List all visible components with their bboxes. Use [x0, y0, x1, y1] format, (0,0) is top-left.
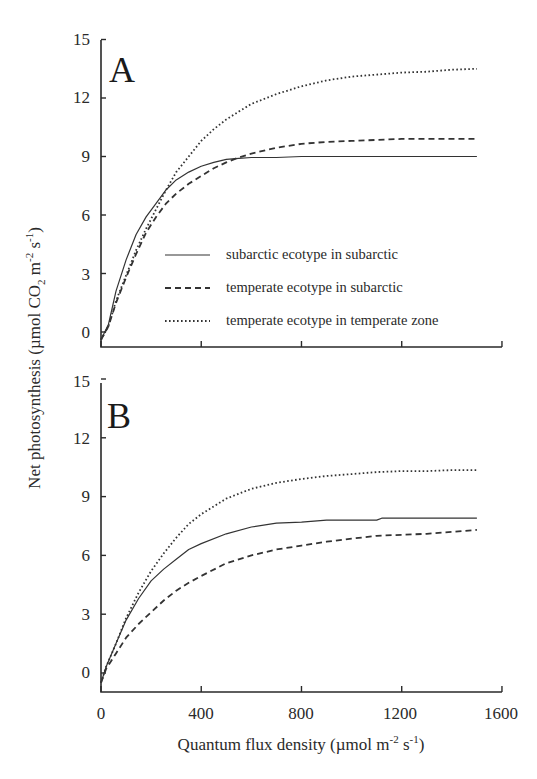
- legend-label-dotted: temperate ecotype in temperate zone: [226, 312, 439, 328]
- x-tick-label: 1600: [471, 705, 531, 722]
- y-tick-label: 15: [60, 31, 90, 48]
- y-tick-label: 12: [60, 430, 90, 447]
- panel-b-plot: [101, 379, 502, 692]
- axis-lines: [101, 383, 502, 692]
- x-tick-label: 0: [71, 705, 131, 722]
- y-tick-label: 0: [60, 324, 90, 341]
- y-axis-label-text: ): [25, 227, 44, 233]
- y-tick-label: 15: [60, 373, 90, 390]
- y-tick-label: 6: [60, 207, 90, 224]
- y-tick-label: 9: [60, 488, 90, 505]
- legend-label-solid: subarctic ecotype in subarctic: [226, 246, 398, 262]
- y-tick-label: 0: [60, 664, 90, 681]
- y-axis-label-text: Net photosynthesis (µmol CO: [25, 285, 44, 489]
- x-axis-label: Quantum flux density (µmol m-2 s-1): [178, 733, 425, 755]
- x-axis-label-superscript: -1: [410, 733, 419, 745]
- figure: A B 0 3 6 9 12 15 0 3 6 9 12 15 0 400 80…: [0, 0, 537, 779]
- legend-label-dashed: temperate ecotype in subarctic: [226, 279, 403, 295]
- series-line-dotted: [101, 470, 477, 683]
- y-axis-label-subscript: 2: [35, 279, 47, 285]
- y-tick-label: 12: [60, 89, 90, 106]
- panel-a-plot: [101, 40, 502, 348]
- y-axis-label-superscript: -1: [23, 233, 35, 242]
- series-line-dotted: [101, 69, 477, 340]
- y-tick-label: 9: [60, 148, 90, 165]
- y-axis-label-text: m: [25, 262, 44, 279]
- y-axis-label: Net photosynthesis (µmol CO2 m-2 s-1): [23, 227, 46, 489]
- x-tick-label: 400: [171, 705, 231, 722]
- x-axis-label-text: Quantum flux density (µmol m: [178, 735, 390, 754]
- series-line-dashed: [101, 530, 477, 683]
- panel-a-letter: A: [109, 52, 135, 88]
- y-tick-label: 6: [60, 547, 90, 564]
- series-line-solid: [101, 518, 477, 683]
- y-axis-label-text: s: [25, 242, 44, 253]
- panel-b-letter: B: [107, 398, 131, 434]
- x-axis-label-superscript: -2: [390, 733, 399, 745]
- y-tick-label: 3: [60, 606, 90, 623]
- x-tick-label: 800: [271, 705, 331, 722]
- x-axis-label-text: ): [419, 735, 425, 754]
- y-axis-label-superscript: -2: [23, 253, 35, 262]
- y-tick-label: 3: [60, 266, 90, 283]
- series-line-dashed: [101, 139, 477, 340]
- x-tick-label: 1200: [370, 705, 430, 722]
- x-axis-label-text: s: [399, 735, 410, 754]
- legend-swatches: [165, 255, 210, 321]
